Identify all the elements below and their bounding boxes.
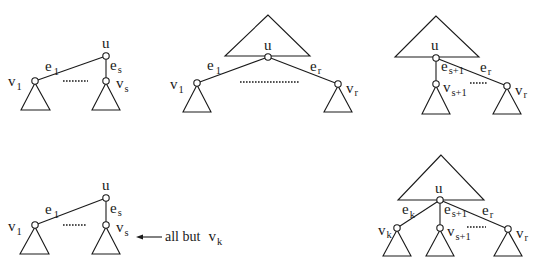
- node-vs: [103, 78, 109, 84]
- label-u: u: [264, 37, 272, 53]
- label-vk: vk: [378, 222, 393, 240]
- label-er: er: [482, 202, 494, 220]
- label-u: u: [102, 177, 110, 193]
- tree-decomposition-diagram: u e1 es v1 vs u e1 er v1 vr u es+1 er: [0, 0, 546, 267]
- node-vs1: [437, 225, 443, 231]
- arrow-left-icon: [136, 235, 143, 240]
- node-u: [433, 55, 439, 61]
- label-er: er: [480, 59, 492, 77]
- node-u: [437, 197, 443, 203]
- label-es: es: [110, 57, 122, 75]
- node-vr: [505, 226, 511, 232]
- label-es1: es+1: [441, 58, 464, 76]
- node-vk: [394, 225, 400, 231]
- node-vs1: [433, 81, 439, 87]
- label-er: er: [310, 58, 322, 76]
- subtree-v1-triangle: [21, 83, 50, 110]
- subtree-v1-triangle: [20, 227, 49, 254]
- node-u: [103, 53, 109, 59]
- node-v1: [194, 80, 200, 86]
- node-vr: [504, 83, 510, 89]
- panel-top-middle: u e1 er v1 vr: [170, 15, 359, 112]
- label-ek: ek: [402, 201, 416, 220]
- node-u: [265, 54, 271, 60]
- label-e1: e1: [45, 58, 59, 77]
- node-u: [103, 195, 109, 201]
- label-vr: vr: [516, 225, 529, 243]
- label-v1: v1: [170, 76, 184, 95]
- node-v1: [32, 222, 38, 228]
- label-vs1: vs+1: [443, 79, 467, 98]
- label-u: u: [102, 35, 110, 51]
- label-u: u: [435, 180, 443, 196]
- node-vr: [335, 81, 341, 87]
- panel-bottom-right: u ek es+1 er vk vs+1 vr: [378, 155, 529, 256]
- label-vs1: vs+1: [447, 223, 471, 242]
- label-vr: vr: [346, 80, 359, 98]
- edge-er: [268, 57, 338, 84]
- label-u: u: [431, 37, 439, 53]
- panel-top-left: u e1 es v1 vs: [8, 35, 129, 110]
- label-e1: e1: [45, 201, 59, 220]
- label-es: es: [110, 200, 122, 218]
- label-vr: vr: [515, 82, 528, 100]
- label-v1: v1: [8, 73, 22, 92]
- label-v1: v1: [8, 218, 22, 237]
- panel-bottom-left: u e1 es v1 vs all butvk: [8, 177, 223, 254]
- label-vs: vs: [116, 219, 129, 238]
- label-vs: vs: [116, 75, 129, 94]
- label-e1: e1: [207, 57, 221, 76]
- subtree-v1-triangle: [183, 85, 211, 112]
- node-v1: [32, 78, 38, 84]
- label-es1: es+1: [444, 201, 467, 219]
- annotation-all-but-vk: all butvk: [165, 228, 223, 247]
- panel-top-right: u es+1 er vs+1 vr: [395, 16, 528, 114]
- node-vs: [103, 222, 109, 228]
